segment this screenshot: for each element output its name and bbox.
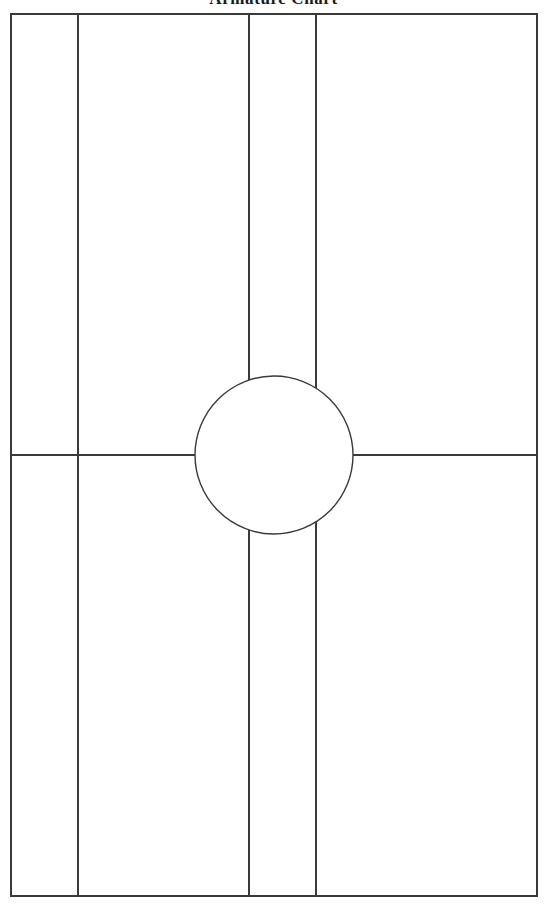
chart-page: Armature Chart (0, 0, 547, 904)
center-circle (195, 376, 353, 534)
chart-canvas (0, 0, 547, 904)
armature-chart-figure (0, 0, 547, 904)
